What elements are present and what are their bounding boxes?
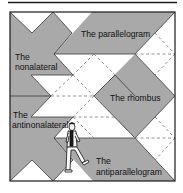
label-rhombus: The rhombus — [110, 93, 161, 103]
label-antinonalateral-2: antinonalateral — [12, 120, 68, 130]
label-antinonalateral-1: The — [13, 110, 28, 120]
tiling-diagram: The parallelogram The nonalateral The rh… — [0, 0, 183, 193]
label-nonalateral-1: The — [15, 52, 30, 62]
label-antiparallelogram-1: The — [96, 156, 111, 166]
label-antiparallelogram-2: antiparallelogram — [96, 167, 162, 177]
label-nonalateral-2: nonalateral — [15, 62, 58, 72]
label-parallelogram: The parallelogram — [81, 29, 150, 39]
